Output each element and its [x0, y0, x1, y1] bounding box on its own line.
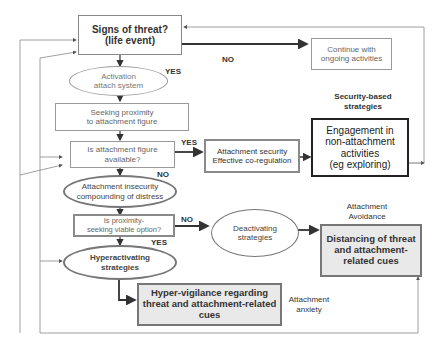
label-no-threat: NO: [222, 55, 234, 64]
engagement-line2: non-attachment: [325, 136, 395, 148]
activation-ellipse: Activation attach system: [69, 66, 168, 96]
available-line2: available?: [104, 155, 140, 164]
hyperactivating-line1: Hyperactivating: [90, 253, 150, 262]
attachment-available-box: Is attachment figure available?: [70, 141, 175, 168]
seeking-proximity-box: Seeking proximity to attachment figure: [55, 103, 189, 131]
viable-line2: seeking viable option?: [87, 226, 161, 234]
security-line2: Effective co-regulation: [212, 156, 291, 165]
signs-of-threat-line1: Signs of threat?: [92, 24, 168, 36]
caption-anxiety-line2: anxiety: [284, 305, 334, 315]
engagement-line3: activities: [341, 148, 379, 160]
label-yes-available: YES: [181, 138, 197, 147]
continue-box: Continue with ongoing activities: [311, 38, 392, 70]
signs-of-threat-box: Signs of threat? (life event): [78, 15, 182, 55]
security-line1: Attachment security: [217, 147, 287, 156]
insecurity-line1: Attachment insecurity: [82, 182, 158, 191]
deactivating-line2: strategies: [238, 233, 273, 242]
caption-avoidance-line2: Avoidance: [335, 212, 399, 222]
proximity-viable-box: Is proximity- seeking viable option?: [73, 214, 175, 237]
caption-avoidance-line1: Attachment: [335, 202, 399, 212]
hyperactivating-ellipse: Hyperactivating strategies: [63, 245, 177, 280]
label-no-available: NO: [157, 170, 169, 179]
caption-security-line2: strategies: [318, 102, 408, 112]
seeking-line1: Seeking proximity: [90, 108, 153, 117]
caption-security-based: Security-based strategies: [318, 92, 408, 112]
deactivating-line1: Deactivating: [233, 224, 277, 233]
caption-security-line1: Security-based: [318, 92, 408, 102]
label-yes-viable: YES: [151, 238, 167, 247]
continue-line2: ongoing activities: [321, 54, 382, 63]
signs-of-threat-line2: (life event): [105, 35, 155, 47]
engagement-line4: (eg exploring): [329, 159, 390, 171]
attachment-insecurity-ellipse: Attachment insecurity compounding of dis…: [63, 175, 177, 208]
engagement-box: Engagement in non-attachment activities …: [311, 118, 409, 177]
activation-line2: attach system: [94, 81, 143, 90]
label-no-viable: NO: [181, 215, 193, 224]
hyperactivating-line2: strategies: [101, 263, 139, 272]
caption-anxiety: Attachment anxiety: [284, 295, 334, 315]
insecurity-line2: compounding of distress: [77, 192, 164, 201]
deactivating-ellipse: Deactivating strategies: [211, 209, 299, 257]
distancing-line3: related cues: [343, 256, 398, 267]
engagement-line1: Engagement in: [326, 125, 393, 137]
activation-line1: Activation: [101, 72, 136, 81]
hypervigilance-box: Hyper-vigilance regarding threat and att…: [137, 283, 282, 326]
continue-line1: Continue with: [327, 45, 375, 54]
hypervigilance-line3: cues: [199, 310, 221, 321]
distancing-box: Distancing of threat and attachment- rel…: [320, 224, 422, 277]
label-yes-activation: YES: [165, 67, 181, 76]
seeking-line2: to attachment figure: [87, 117, 158, 126]
caption-anxiety-line1: Attachment: [284, 295, 334, 305]
available-line1: Is attachment figure: [87, 145, 157, 154]
attachment-security-box: Attachment security Effective co-regulat…: [204, 139, 300, 173]
caption-avoidance: Attachment Avoidance: [335, 202, 399, 222]
